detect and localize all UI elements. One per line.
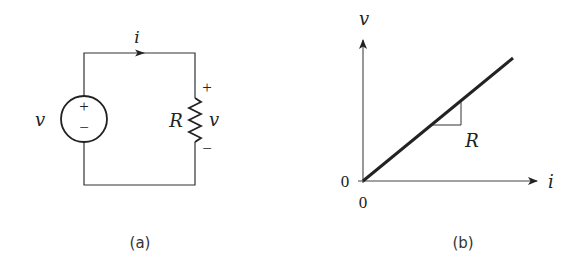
slope-label: R	[464, 130, 479, 151]
caption-b: (b)	[452, 234, 473, 252]
resistor-label: R	[168, 110, 183, 131]
source-minus-sign: −	[79, 118, 89, 137]
figure-canvas: + − v i R v + − (a) v i 0 0 R (b)	[0, 0, 573, 268]
caption-a: (a)	[130, 234, 151, 252]
current-label: i	[134, 27, 139, 47]
resistor-voltage-label: v	[209, 109, 219, 130]
source-plus-sign: +	[79, 97, 89, 116]
vi-graph	[358, 40, 537, 183]
resistor-plus-sign: +	[202, 78, 212, 97]
y-axis-label: v	[359, 8, 369, 29]
x-origin-tick: 0	[359, 193, 368, 212]
characteristic-line	[363, 58, 513, 181]
resistor-minus-sign: −	[202, 139, 212, 158]
x-axis-label: i	[548, 171, 554, 192]
y-origin-tick: 0	[341, 172, 350, 191]
resistor-icon	[189, 98, 201, 142]
source-voltage-label: v	[35, 109, 45, 130]
